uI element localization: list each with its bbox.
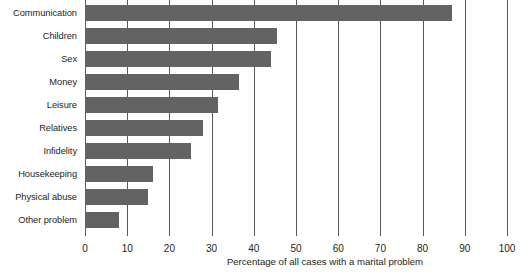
x-tick-label: 10	[107, 242, 147, 255]
x-tick-label: 30	[192, 242, 232, 255]
x-tick-label: 100	[487, 242, 526, 255]
bar	[85, 97, 218, 113]
bar	[85, 5, 452, 21]
x-tick-label: 60	[318, 242, 358, 255]
bar	[85, 74, 239, 90]
category-label: Other problem	[18, 212, 77, 228]
gridline-100	[507, 0, 508, 236]
x-tick-label: 20	[149, 242, 189, 255]
category-axis-labels: CommunicationChildrenSexMoneyLeisureRela…	[0, 0, 81, 236]
x-tick-label: 0	[65, 242, 105, 255]
gridline-80	[423, 0, 424, 236]
gridline-50	[296, 0, 297, 236]
category-label: Physical abuse	[15, 189, 77, 205]
bar	[85, 143, 191, 159]
bar-chart: CommunicationChildrenSexMoneyLeisureRela…	[0, 0, 526, 275]
x-axis-title-text: Percentage of all cases with a marital p…	[227, 256, 423, 267]
bar	[85, 189, 148, 205]
bar	[85, 28, 277, 44]
x-axis-title: Percentage of all cases with a marital p…	[0, 256, 526, 267]
x-tick-label: 70	[360, 242, 400, 255]
plot-area	[85, 0, 507, 236]
gridline-90	[465, 0, 466, 236]
x-tick-label: 80	[403, 242, 443, 255]
gridline-70	[380, 0, 381, 236]
bar	[85, 212, 119, 228]
category-label: Leisure	[47, 97, 77, 113]
category-label: Communication	[13, 5, 77, 21]
bar	[85, 51, 271, 67]
category-label: Money	[49, 74, 77, 90]
x-tick-label: 50	[276, 242, 316, 255]
x-axis: 0102030405060708090100	[85, 236, 507, 256]
category-label: Infidelity	[43, 143, 77, 159]
x-tick-label: 40	[234, 242, 274, 255]
category-label: Children	[43, 28, 77, 44]
category-label: Relatives	[39, 120, 77, 136]
category-label: Sex	[61, 51, 77, 67]
bar	[85, 120, 203, 136]
x-tick-label: 90	[445, 242, 485, 255]
bar	[85, 166, 153, 182]
category-label: Housekeeping	[18, 166, 77, 182]
gridline-60	[338, 0, 339, 236]
